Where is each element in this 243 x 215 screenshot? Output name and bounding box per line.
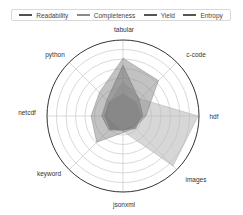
axis-label-hdf: hdf [209, 113, 218, 120]
legend-label: Readability [36, 12, 68, 19]
radar-chart: tabular c-code hdf images jsonxml keywor… [0, 0, 243, 215]
legend-label: Yield [161, 12, 175, 19]
legend-swatch-entropy [183, 14, 196, 16]
axis-label-images: images [186, 176, 208, 184]
axis-label-python: python [45, 51, 65, 59]
legend-swatch-readability [19, 14, 32, 16]
axis-label-keyword: keyword [37, 170, 62, 178]
legend-item-yield: Yield [144, 12, 175, 19]
legend-swatch-yield [144, 14, 157, 16]
chart-legend: Readability Completeness Yield Entropy [11, 9, 231, 21]
legend-swatch-completeness [77, 14, 90, 16]
radar-series [91, 58, 198, 166]
legend-item-entropy: Entropy [183, 12, 222, 19]
legend-item-readability: Readability [19, 12, 68, 19]
legend-item-completeness: Completeness [77, 12, 136, 19]
axis-label-tabular: tabular [114, 26, 135, 33]
legend-label: Completeness [94, 12, 136, 19]
axis-label-c-code: c-code [186, 51, 206, 58]
legend-label: Entropy [200, 12, 222, 19]
axis-label-netcdf: netcdf [18, 109, 36, 116]
axis-label-jsonxml: jsonxml [112, 201, 136, 209]
